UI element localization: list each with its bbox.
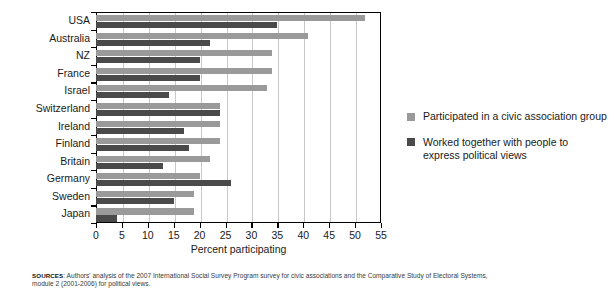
y-tick	[91, 12, 96, 13]
bar-group	[96, 135, 381, 153]
bars-layer	[96, 12, 381, 223]
source-line2: module 2 (2001-2006) for political views…	[32, 280, 610, 288]
bar	[96, 215, 117, 221]
category-label: Germany	[0, 170, 90, 188]
legend-label-civic-association: Participated in a civic association grou…	[423, 110, 607, 124]
source-line1: : Authors' analysis of the 2007 Internat…	[63, 272, 487, 279]
x-tick	[381, 223, 382, 228]
x-tick	[148, 223, 149, 228]
bar	[96, 40, 210, 46]
bar	[96, 22, 277, 28]
bar-group	[96, 12, 381, 30]
bar	[96, 68, 272, 74]
bar	[96, 110, 220, 116]
x-tick	[122, 223, 123, 228]
category-label: France	[0, 65, 90, 83]
category-label: Sweden	[0, 188, 90, 206]
x-axis-title: Percent participating	[96, 243, 381, 255]
bar-group	[96, 188, 381, 206]
bar-group	[96, 205, 381, 223]
y-tick	[91, 82, 96, 83]
category-label: Ireland	[0, 118, 90, 136]
x-tick	[226, 223, 227, 228]
y-tick	[91, 100, 96, 101]
y-tick	[91, 65, 96, 66]
bar	[96, 103, 220, 109]
bar	[96, 85, 267, 91]
x-tick	[277, 223, 278, 228]
bar-group	[96, 118, 381, 136]
category-axis-labels: USAAustraliaNZFranceIsraelSwitzerlandIre…	[0, 12, 90, 223]
category-label: Israel	[0, 82, 90, 100]
bar-group	[96, 100, 381, 118]
bar	[96, 208, 194, 214]
x-tick	[251, 223, 252, 228]
y-tick	[91, 118, 96, 119]
bar	[96, 138, 220, 144]
y-tick	[91, 188, 96, 189]
y-tick	[91, 153, 96, 154]
x-tick	[303, 223, 304, 228]
bar	[96, 156, 210, 162]
category-label: NZ	[0, 47, 90, 65]
category-label: Finland	[0, 135, 90, 153]
bar	[96, 180, 231, 186]
bar	[96, 15, 365, 21]
bar	[96, 121, 220, 127]
bar-group	[96, 82, 381, 100]
bar-group	[96, 47, 381, 65]
legend-label-political-views: Worked together with people to express p…	[423, 136, 607, 163]
source-note: SOURCES: Authors' analysis of the 2007 I…	[32, 272, 610, 289]
chart-legend: Participated in a civic association grou…	[407, 110, 607, 175]
bar	[96, 75, 200, 81]
x-tick-label: 55	[366, 229, 396, 241]
bar	[96, 145, 189, 151]
y-tick	[91, 135, 96, 136]
x-tick	[329, 223, 330, 228]
category-label: USA	[0, 12, 90, 30]
category-label: Britain	[0, 153, 90, 171]
bar	[96, 128, 184, 134]
category-label: Switzerland	[0, 100, 90, 118]
legend-swatch-light	[407, 113, 415, 121]
bar-group	[96, 65, 381, 83]
bar	[96, 163, 163, 169]
bar	[96, 173, 200, 179]
legend-item-civic-association: Participated in a civic association grou…	[407, 110, 607, 124]
bar	[96, 33, 308, 39]
category-label: Japan	[0, 205, 90, 223]
x-tick	[96, 223, 97, 228]
x-tick	[355, 223, 356, 228]
bar	[96, 191, 194, 197]
legend-item-political-views: Worked together with people to express p…	[407, 136, 607, 163]
x-tick	[200, 223, 201, 228]
y-tick	[91, 47, 96, 48]
bar-group	[96, 153, 381, 171]
category-label: Australia	[0, 30, 90, 48]
bar	[96, 92, 169, 98]
x-tick	[174, 223, 175, 228]
bar-group	[96, 30, 381, 48]
source-label: SOURCES	[32, 272, 63, 279]
bar	[96, 57, 200, 63]
legend-swatch-dark	[407, 138, 415, 146]
y-tick	[91, 30, 96, 31]
bar-group	[96, 170, 381, 188]
y-tick	[91, 170, 96, 171]
bar	[96, 50, 272, 56]
y-tick	[91, 205, 96, 206]
bar	[96, 198, 174, 204]
